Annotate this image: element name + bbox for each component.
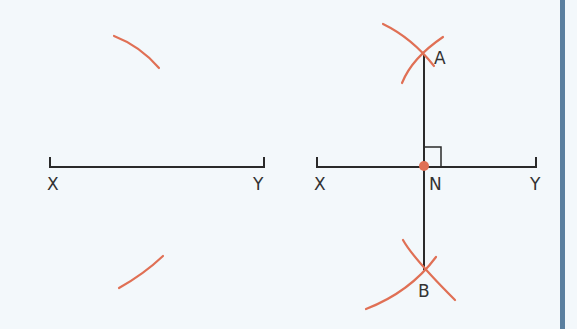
right-label-y: Y	[530, 176, 540, 193]
label-b: B	[418, 283, 430, 300]
page-edge-bar	[560, 0, 565, 329]
construction-drawing	[0, 0, 577, 329]
label-n: N	[429, 176, 442, 193]
left-construction-arcs	[114, 36, 163, 288]
diagram-canvas: X Y X Y A N B	[0, 0, 577, 329]
label-a: A	[434, 50, 446, 67]
arc-a-from-x	[383, 24, 434, 66]
midpoint-n-dot	[419, 161, 429, 171]
left-label-x: X	[47, 176, 59, 193]
left-segment-xy	[50, 157, 264, 167]
left-upper-arc	[114, 36, 159, 68]
left-label-y: Y	[253, 176, 263, 193]
right-label-x: X	[314, 176, 326, 193]
left-lower-arc	[119, 256, 163, 288]
